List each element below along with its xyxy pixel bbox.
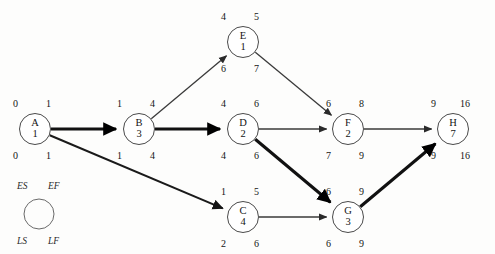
node-id-g: G — [344, 205, 352, 216]
node-duration-h: 7 — [450, 128, 455, 139]
node-duration-b: 3 — [136, 128, 141, 139]
node-duration-d: 2 — [240, 128, 245, 139]
node-g-lf: 9 — [359, 239, 364, 249]
edge-e-to-f — [255, 52, 331, 115]
node-g-ls: 6 — [326, 239, 331, 249]
node-e-ef: 5 — [254, 12, 259, 22]
node-c-ls: 2 — [221, 239, 226, 249]
legend-es-label: ES — [17, 182, 28, 192]
node-g-es: 6 — [326, 187, 331, 197]
network-graph-canvas: A1B3E1D2C4F2G3H7 — [0, 0, 495, 254]
legend-key-circle — [24, 199, 54, 229]
node-b-ls: 1 — [117, 151, 122, 161]
node-d-ef: 6 — [254, 99, 259, 109]
node-h[interactable]: H7 — [438, 114, 469, 145]
node-b-es: 1 — [117, 99, 122, 109]
node-b[interactable]: B3 — [124, 114, 155, 145]
node-a-ls: 0 — [13, 151, 18, 161]
node-h-lf: 16 — [460, 151, 470, 161]
node-e-ls: 6 — [221, 64, 226, 74]
node-h-es: 9 — [431, 99, 436, 109]
node-id-f: F — [345, 117, 351, 128]
edge-d-to-g — [255, 139, 330, 202]
node-a[interactable]: A1 — [20, 114, 51, 145]
node-id-h: H — [449, 117, 457, 128]
node-g[interactable]: G3 — [333, 202, 364, 233]
node-f-ef: 8 — [359, 99, 364, 109]
node-c-es: 1 — [221, 187, 226, 197]
node-d[interactable]: D2 — [228, 114, 259, 145]
node-id-e: E — [240, 30, 246, 41]
node-id-a: A — [31, 117, 39, 128]
node-h-ef: 16 — [460, 99, 470, 109]
node-id-b: B — [135, 117, 142, 128]
node-h-ls: 9 — [431, 151, 436, 161]
node-id-d: D — [239, 117, 247, 128]
node-a-es: 0 — [13, 99, 18, 109]
edge-g-to-h — [360, 144, 435, 207]
node-e-lf: 7 — [254, 64, 259, 74]
node-c-ef: 5 — [254, 187, 259, 197]
node-f-lf: 9 — [359, 151, 364, 161]
legend-lf-label: LF — [48, 237, 59, 247]
node-a-lf: 1 — [46, 151, 51, 161]
node-b-ef: 4 — [150, 99, 155, 109]
node-duration-g: 3 — [345, 216, 350, 227]
node-duration-a: 1 — [32, 128, 37, 139]
node-g-ef: 9 — [359, 187, 364, 197]
node-f-es: 6 — [326, 99, 331, 109]
node-e-es: 4 — [221, 12, 226, 22]
edge-a-to-c — [50, 135, 223, 208]
legend-ls-label: LS — [17, 237, 27, 247]
edge-b-to-e — [151, 56, 226, 119]
node-duration-e: 1 — [240, 41, 245, 52]
node-f[interactable]: F2 — [333, 114, 364, 145]
node-a-ef: 1 — [46, 99, 51, 109]
node-f-ls: 7 — [326, 151, 331, 161]
node-e[interactable]: E1 — [228, 27, 259, 58]
node-d-lf: 6 — [254, 151, 259, 161]
legend-ef-label: EF — [48, 182, 60, 192]
node-b-lf: 4 — [150, 151, 155, 161]
node-d-es: 4 — [221, 99, 226, 109]
node-duration-c: 4 — [240, 216, 246, 227]
network-diagram: A1B3E1D2C4F2G3H7 01011414456746461526687… — [0, 0, 495, 254]
node-d-ls: 4 — [221, 151, 226, 161]
node-duration-f: 2 — [345, 128, 350, 139]
node-c-lf: 6 — [254, 239, 259, 249]
node-c[interactable]: C4 — [228, 202, 259, 233]
node-id-c: C — [239, 205, 246, 216]
